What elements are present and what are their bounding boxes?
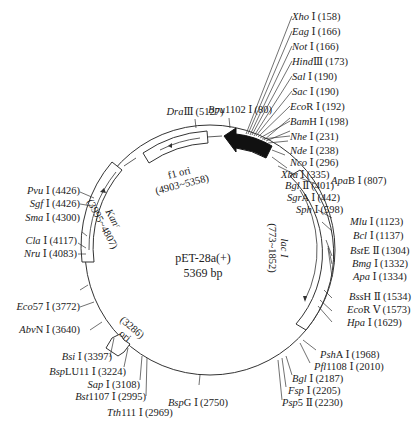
site-label-nhei: Nhe Ⅰ(231) (289, 131, 339, 143)
site-label-tth111i: Tth111 Ⅰ(2969) (107, 407, 173, 419)
plasmid-name: pET-28a(+) (175, 251, 231, 265)
site-label-hindiii: HindⅢ(173) (291, 56, 348, 68)
site-label-noti: Not Ⅰ(166) (291, 41, 339, 53)
site-label-hpai: Hpa Ⅰ(1629) (346, 317, 402, 329)
site-label-ncoi: Nco Ⅰ(296) (289, 157, 339, 169)
site-label-pvui: Pvu Ⅰ(4426) (26, 185, 81, 197)
site-label-sgrai: SgrA Ⅰ(442) (287, 192, 341, 204)
site-labels: Xho Ⅰ(158) Eag Ⅰ(166) Not Ⅰ(166) HindⅢ(1… (15, 11, 411, 419)
site-label-eco57i: Eco57 Ⅰ(3772) (15, 301, 80, 313)
site-label-mlui: Mlu Ⅰ(1123) (349, 216, 404, 228)
site-label-bsteii: BstE Ⅱ(1304) (350, 245, 410, 257)
site-label-fspi: Fsp Ⅰ(2205) (287, 385, 341, 397)
site-label-sali: Sal Ⅰ(190) (292, 71, 337, 83)
f1-ori-feature (124, 131, 222, 166)
mcs-filled-arrow (224, 128, 272, 158)
site-label-bspgi: BspG Ⅰ(2750) (168, 397, 229, 409)
plasmid-size: 5369 bp (184, 266, 223, 280)
site-label-bsshii: BssH Ⅱ(1534) (349, 291, 411, 303)
site-label-bmgi: Bmg Ⅰ(1332) (352, 258, 409, 270)
site-label-bsplu11i: BspLU11 Ⅰ(3224) (49, 366, 126, 378)
f1-ori-label: f1 ori (4903~5358) (151, 161, 210, 198)
site-label-bamhi: BamH Ⅰ(198) (290, 116, 349, 128)
site-label-nrui: Nru Ⅰ(4083) (23, 248, 78, 260)
site-label-abvni: AbvN Ⅰ(3640) (18, 324, 80, 336)
site-label-sgfi: Sgf Ⅰ(4426) (30, 198, 81, 210)
site-label-ndei: Nde Ⅰ(238) (289, 145, 339, 157)
site-label-bcli: Bcl Ⅰ(1137) (353, 230, 404, 242)
site-label-bst1107i: Bst1107 Ⅰ(2995) (75, 391, 146, 403)
svg-text:lac I: lac I (279, 239, 290, 258)
site-label-pfl1108i: Pfl1108 Ⅰ(2010) (313, 361, 384, 373)
site-label-ecori: EcoR Ⅰ(192) (289, 101, 345, 113)
svg-text:(773~1852): (773~1852) (266, 223, 278, 273)
site-label-bsii: Bsi Ⅰ(3397) (62, 351, 113, 363)
site-label-bgli: Bgl Ⅰ(2187) (292, 373, 344, 385)
site-label-apabi: ApaB Ⅰ(807) (330, 175, 387, 187)
site-label-smai: Sma Ⅰ(4300) (25, 212, 80, 224)
site-label-psp5ii: Psp5 Ⅱ(2230) (281, 397, 343, 409)
site-label-saci: Sac Ⅰ(190) (292, 86, 339, 98)
site-label-apai: Apa Ⅰ(1334) (352, 271, 407, 283)
site-label-ecorv: EcoR Ⅴ(1573) (346, 304, 411, 316)
plasmid-map: pET-28a(+) 5369 bp lac I (773~1852) Kanʳ… (0, 0, 420, 430)
site-label-bpu1102i: Bpu1102 Ⅰ(80) (208, 104, 272, 116)
site-label-pshai: PshA Ⅰ(1968) (319, 349, 380, 361)
site-label-sapi: Sap Ⅰ(3108) (87, 379, 140, 391)
site-label-clai: Cla Ⅰ(4117) (25, 235, 77, 247)
site-label-eagi: Eag Ⅰ(166) (291, 26, 341, 38)
site-label-sphi: Sph Ⅰ(598) (296, 204, 344, 216)
site-label-xhoi: Xho Ⅰ(158) (291, 11, 341, 23)
lac-i-label: lac I (773~1852) (266, 223, 290, 273)
